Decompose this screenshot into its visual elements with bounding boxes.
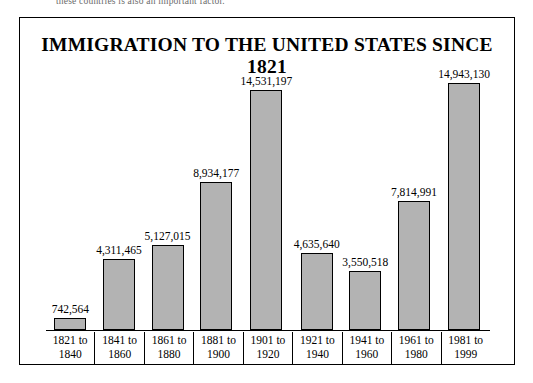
bar-value-label: 5,127,015 (145, 230, 191, 242)
page-top-text-fragment: these countries is also an important fac… (56, 0, 356, 8)
x-axis-tick-line1: 1981 to (442, 334, 490, 348)
bar-value-label: 3,550,518 (342, 256, 388, 268)
x-axis-tick-line1: 1901 to (244, 334, 292, 348)
bar-rect[interactable] (349, 271, 381, 330)
x-axis-line (46, 330, 490, 331)
bar-value-label: 8,934,177 (193, 167, 239, 179)
bar-slot: 3,550,518 (341, 68, 390, 330)
bar-rect[interactable] (448, 83, 480, 330)
bar-value-label: 14,943,130 (438, 68, 490, 80)
bar-value-label: 4,635,640 (294, 238, 340, 250)
x-axis-tick-line2: 1940 (293, 348, 341, 362)
x-axis-tick-line2: 1860 (95, 348, 143, 362)
bar-slot: 4,311,465 (95, 68, 144, 330)
bar-slot: 742,564 (46, 68, 95, 330)
chart-page: these countries is also an important fac… (0, 0, 533, 383)
bar-rect[interactable] (200, 182, 232, 330)
x-axis-tick-label: 1821 to 1840 (46, 332, 95, 364)
bar-value-label: 14,531,197 (241, 75, 293, 87)
bar-slot: 7,814,991 (390, 68, 439, 330)
x-axis-tick-line2: 1999 (442, 348, 490, 362)
x-axis-tick-line2: 1880 (145, 348, 193, 362)
bar-slot: 14,531,197 (241, 68, 293, 330)
x-axis-tick-line1: 1961 to (392, 334, 440, 348)
x-axis-labels: 1821 to 1840 1841 to 1860 1861 to 1880 1… (46, 332, 490, 364)
x-axis-tick-line1: 1921 to (293, 334, 341, 348)
x-axis-tick-label: 1981 to 1999 (442, 332, 490, 364)
x-axis-tick-line2: 1960 (343, 348, 391, 362)
bar-rect[interactable] (54, 318, 86, 330)
x-axis-tick-line2: 1980 (392, 348, 440, 362)
x-axis-tick-label: 1921 to 1940 (293, 332, 342, 364)
x-axis-tick-line1: 1841 to (95, 334, 143, 348)
x-axis-tick-line1: 1821 to (46, 334, 94, 348)
x-axis-tick-line1: 1941 to (343, 334, 391, 348)
x-axis-tick-line1: 1861 to (145, 334, 193, 348)
bar-rect[interactable] (250, 90, 282, 330)
x-axis-tick-line2: 1840 (46, 348, 94, 362)
bar-value-label: 742,564 (52, 303, 89, 315)
x-axis-tick-label: 1901 to 1920 (244, 332, 293, 364)
bar-slot: 4,635,640 (292, 68, 341, 330)
x-axis-tick-line2: 1920 (244, 348, 292, 362)
x-axis-tick-label: 1841 to 1860 (95, 332, 144, 364)
bar-slot: 5,127,015 (143, 68, 192, 330)
bar-rect[interactable] (103, 259, 135, 330)
bar-slot: 8,934,177 (192, 68, 241, 330)
plot-area: 742,564 4,311,465 5,127,015 8,934,177 14 (46, 68, 490, 330)
bar-rect[interactable] (301, 253, 333, 330)
x-axis-tick-line2: 1900 (194, 348, 242, 362)
chart-frame: IMMIGRATION TO THE UNITED STATES SINCE 1… (19, 17, 515, 365)
bar-slot: 14,943,130 (438, 68, 490, 330)
bar-rect[interactable] (398, 201, 430, 330)
bar-value-label: 4,311,465 (96, 244, 142, 256)
x-axis-tick-label: 1881 to 1900 (194, 332, 243, 364)
x-axis-tick-label: 1961 to 1980 (392, 332, 441, 364)
bar-series: 742,564 4,311,465 5,127,015 8,934,177 14 (46, 68, 490, 330)
x-axis-tick-label: 1941 to 1960 (343, 332, 392, 364)
bar-rect[interactable] (152, 245, 184, 330)
x-axis-tick-line1: 1881 to (194, 334, 242, 348)
bar-value-label: 7,814,991 (391, 186, 437, 198)
x-axis-tick-label: 1861 to 1880 (145, 332, 194, 364)
